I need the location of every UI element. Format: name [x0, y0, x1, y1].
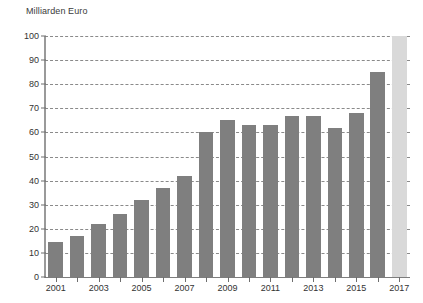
bar	[70, 236, 85, 277]
gridline	[45, 60, 410, 61]
x-axis-tick	[163, 277, 164, 282]
x-axis-tick	[378, 277, 379, 282]
x-axis-tick-label: 2001	[46, 283, 66, 293]
y-axis-tick-label: 50	[7, 152, 39, 162]
bar	[134, 200, 149, 277]
gridline	[45, 108, 410, 109]
bar	[392, 36, 407, 277]
x-axis-tick-label: 2013	[303, 283, 323, 293]
y-axis-tick	[41, 84, 46, 85]
x-axis-tick	[77, 277, 78, 282]
y-axis-tick-label: 0	[7, 272, 39, 282]
x-axis-tick	[120, 277, 121, 282]
y-axis-tick	[41, 277, 46, 278]
y-axis-tick	[41, 60, 46, 61]
bar	[328, 128, 343, 277]
x-axis-tick-label: 2009	[217, 283, 237, 293]
bar	[285, 116, 300, 277]
x-axis-tick	[356, 277, 357, 282]
y-axis-tick	[41, 36, 46, 37]
y-axis-tick	[41, 228, 46, 229]
y-axis-tick	[41, 252, 46, 253]
x-axis-tick	[185, 277, 186, 282]
y-axis-tick-label: 90	[7, 55, 39, 65]
x-axis-tick-label: 2005	[132, 283, 152, 293]
bar-chart: Milliarden Euro 0102030405060708090100 2…	[0, 0, 423, 303]
x-axis-tick-label: 2017	[389, 283, 409, 293]
bar	[156, 188, 171, 277]
bar	[370, 72, 385, 277]
x-axis-tick	[270, 277, 271, 282]
bar	[177, 176, 192, 277]
y-axis-tick-label: 100	[7, 31, 39, 41]
y-axis-tick	[41, 180, 46, 181]
y-axis-tick-label: 10	[7, 248, 39, 258]
x-axis-tick	[228, 277, 229, 282]
x-axis-tick	[99, 277, 100, 282]
bar	[220, 120, 235, 277]
x-axis-tick	[56, 277, 57, 282]
x-axis-tick	[206, 277, 207, 282]
x-axis-tick	[313, 277, 314, 282]
bar	[242, 125, 257, 277]
x-axis-tick	[142, 277, 143, 282]
x-axis-tick	[249, 277, 250, 282]
x-axis-tick	[292, 277, 293, 282]
bar	[263, 125, 278, 277]
bar	[48, 242, 63, 277]
y-axis-tick-label: 60	[7, 127, 39, 137]
y-axis-tick	[41, 108, 46, 109]
x-axis-tick-label: 2007	[175, 283, 195, 293]
bar	[349, 113, 364, 277]
bar	[113, 214, 128, 277]
y-axis-tick-label: 80	[7, 79, 39, 89]
x-axis-tick-label: 2011	[261, 283, 280, 293]
x-axis-tick-label: 2015	[346, 283, 366, 293]
bar	[91, 224, 106, 277]
gridline	[45, 84, 410, 85]
y-axis-tick	[41, 156, 46, 157]
bar	[199, 132, 214, 277]
y-axis-tick-label: 70	[7, 103, 39, 113]
y-axis-tick-label: 40	[7, 176, 39, 186]
y-axis-tick	[41, 204, 46, 205]
x-axis-tick	[335, 277, 336, 282]
x-axis-tick	[399, 277, 400, 282]
gridline	[45, 36, 410, 37]
x-axis-tick-label: 2003	[89, 283, 109, 293]
y-axis-tick	[41, 132, 46, 133]
y-axis-title: Milliarden Euro	[26, 6, 88, 16]
bar	[306, 116, 321, 277]
plot-area	[45, 36, 410, 277]
y-axis-tick-label: 20	[7, 224, 39, 234]
y-axis-tick-label: 30	[7, 200, 39, 210]
